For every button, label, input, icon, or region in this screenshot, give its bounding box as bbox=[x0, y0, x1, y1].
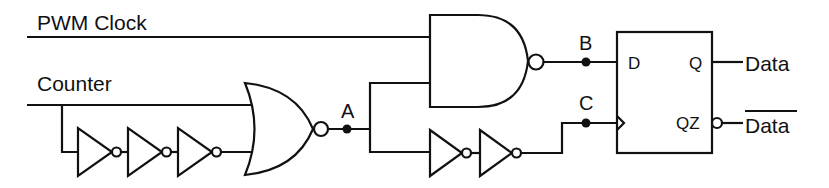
d-pin-label: D bbox=[628, 54, 640, 73]
counter-label: Counter bbox=[37, 72, 112, 95]
nand-gate-bubble bbox=[529, 55, 544, 70]
node-c-label: C bbox=[579, 92, 593, 114]
inverter-5-bubble bbox=[512, 149, 521, 158]
output-data-label: Data bbox=[745, 52, 790, 75]
output-data: Data bbox=[712, 52, 790, 75]
d-flip-flop: D Q QZ bbox=[617, 32, 712, 153]
inverter-chain-delay bbox=[78, 128, 256, 176]
inverter-1-bubble bbox=[112, 148, 121, 157]
output-data-bar-label: Data bbox=[745, 114, 790, 137]
inverter-1 bbox=[78, 128, 112, 176]
inverter-4 bbox=[430, 130, 462, 176]
qz-pin-label: QZ bbox=[676, 114, 700, 133]
inverter-4-bubble bbox=[462, 149, 471, 158]
inverter-3 bbox=[178, 128, 212, 176]
inverter-2-bubble bbox=[162, 148, 171, 157]
q-pin-label: Q bbox=[689, 54, 702, 73]
output-data-bar: Data bbox=[712, 111, 797, 137]
pwm-clock-label: PWM Clock bbox=[37, 11, 147, 34]
inverter-2 bbox=[128, 128, 162, 176]
qz-bubble bbox=[712, 118, 722, 128]
node-b-label: B bbox=[579, 32, 592, 54]
nor-gate-bubble bbox=[314, 122, 328, 136]
inverter-pair-clock bbox=[430, 123, 617, 176]
split-wire-a bbox=[370, 83, 430, 152]
inverter-3-bubble bbox=[212, 148, 221, 157]
pwm-clock-input: PWM Clock bbox=[27, 11, 430, 37]
node-a-label: A bbox=[341, 100, 355, 122]
inverter-5 bbox=[480, 130, 512, 176]
circuit-diagram: PWM Clock Counter A B bbox=[0, 0, 829, 188]
